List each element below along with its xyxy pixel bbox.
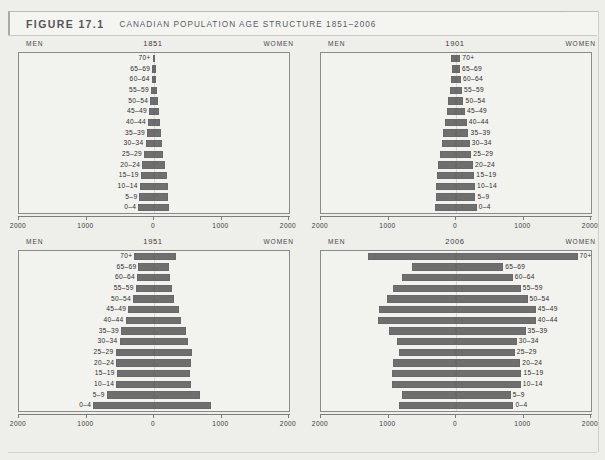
age-group-label: 35–39 bbox=[528, 328, 591, 335]
bar-men bbox=[412, 263, 456, 270]
bar-women bbox=[154, 263, 169, 270]
bar-women bbox=[456, 108, 465, 115]
age-group-label: 35–39 bbox=[19, 328, 119, 335]
chart-title: 2006 bbox=[310, 237, 600, 246]
age-group-label: 15–19 bbox=[476, 172, 591, 179]
bar-men bbox=[126, 317, 154, 324]
axis-tick bbox=[523, 216, 524, 220]
bar-men bbox=[399, 402, 456, 409]
page-title: CANADIAN POPULATION AGE STRUCTURE 1851–2… bbox=[119, 20, 376, 29]
axis-tick-label: 0 bbox=[151, 420, 155, 427]
bar-women bbox=[456, 317, 536, 324]
bar-men bbox=[389, 327, 457, 334]
x-axis: 20001000010002000 bbox=[18, 414, 290, 434]
age-group-label: 5–9 bbox=[19, 194, 137, 201]
axis-tick bbox=[320, 216, 321, 220]
axis-line bbox=[18, 414, 290, 415]
age-group-label: 45–49 bbox=[19, 108, 147, 115]
axis-tick-label: 2000 bbox=[10, 420, 26, 427]
bar-women bbox=[154, 87, 157, 94]
bar-men bbox=[140, 183, 154, 190]
bar-women bbox=[154, 253, 176, 260]
age-group-label: 15–19 bbox=[19, 370, 115, 377]
bar-women bbox=[154, 306, 179, 313]
bar-women bbox=[154, 391, 200, 398]
header-underline bbox=[8, 35, 597, 36]
bar-men bbox=[402, 274, 456, 281]
bar-men bbox=[378, 317, 456, 324]
axis-tick-label: 0 bbox=[151, 222, 155, 229]
bar-men bbox=[142, 161, 154, 168]
age-group-label: 25–29 bbox=[19, 151, 142, 158]
age-group-label: 0–4 bbox=[515, 402, 591, 409]
bar-men bbox=[447, 108, 456, 115]
bar-women bbox=[154, 295, 174, 302]
axis-tick bbox=[320, 414, 321, 418]
bar-women bbox=[154, 108, 159, 115]
bar-men bbox=[402, 391, 456, 398]
age-group-label: 60–64 bbox=[19, 76, 150, 83]
bar-women bbox=[456, 183, 475, 190]
bar-women bbox=[154, 119, 160, 126]
age-group-label: 55–59 bbox=[19, 285, 134, 292]
bar-women bbox=[456, 381, 521, 388]
bar-women bbox=[154, 65, 156, 72]
axis-tick-label: 1000 bbox=[77, 222, 93, 229]
bar-women bbox=[456, 391, 511, 398]
bar-men bbox=[134, 253, 154, 260]
age-group-label: 25–29 bbox=[517, 349, 591, 356]
page-right-edge bbox=[598, 11, 599, 452]
x-axis: 20001000010002000 bbox=[320, 414, 592, 434]
axis-line bbox=[320, 216, 592, 217]
plot-area: 70+65–6960–6455–5950–5445–4940–4435–3930… bbox=[320, 52, 592, 214]
chart-grid: MENWOMEN185170+65–6960–6455–5950–5445–49… bbox=[0, 38, 605, 442]
age-group-label: 65–69 bbox=[505, 264, 591, 271]
age-group-label: 20–24 bbox=[475, 162, 591, 169]
bar-men bbox=[397, 338, 456, 345]
axis-tick bbox=[153, 216, 154, 220]
bar-men bbox=[436, 183, 456, 190]
bar-men bbox=[107, 391, 154, 398]
bar-women bbox=[456, 129, 468, 136]
age-group-label: 5–9 bbox=[477, 194, 591, 201]
bar-men bbox=[392, 370, 456, 377]
axis-tick-label: 2000 bbox=[10, 222, 26, 229]
bar-women bbox=[456, 263, 503, 270]
bar-women bbox=[456, 193, 475, 200]
bar-men bbox=[436, 193, 456, 200]
bar-women bbox=[456, 172, 474, 179]
age-group-label: 65–69 bbox=[19, 66, 150, 73]
bar-men bbox=[136, 285, 154, 292]
axis-tick bbox=[153, 414, 154, 418]
bar-men bbox=[93, 402, 154, 409]
age-group-label: 55–59 bbox=[19, 87, 149, 94]
age-group-label: 15–19 bbox=[523, 370, 591, 377]
bar-women bbox=[456, 97, 463, 104]
age-group-label: 55–59 bbox=[464, 87, 591, 94]
bar-men bbox=[128, 306, 154, 313]
bar-men bbox=[139, 193, 154, 200]
bar-men bbox=[121, 327, 154, 334]
age-group-label: 50–54 bbox=[19, 98, 148, 105]
bar-women bbox=[456, 204, 477, 211]
bar-men bbox=[392, 381, 456, 388]
axis-tick bbox=[18, 216, 19, 220]
bar-women bbox=[456, 327, 526, 334]
axis-tick bbox=[288, 414, 289, 418]
page-footer-rule bbox=[8, 452, 597, 453]
bar-women bbox=[456, 55, 460, 62]
bar-women bbox=[456, 306, 536, 313]
bar-men bbox=[438, 161, 456, 168]
age-group-label: 60–64 bbox=[463, 76, 591, 83]
bar-men bbox=[379, 306, 456, 313]
age-group-label: 40–44 bbox=[19, 317, 124, 324]
bar-women bbox=[154, 129, 161, 136]
bar-women bbox=[456, 295, 528, 302]
chart-title: 1951 bbox=[8, 237, 298, 246]
age-group-label: 20–24 bbox=[19, 162, 140, 169]
bar-women bbox=[154, 140, 162, 147]
age-group-label: 20–24 bbox=[522, 360, 591, 367]
bar-women bbox=[154, 274, 170, 281]
x-axis: 20001000010002000 bbox=[18, 216, 290, 236]
bar-men bbox=[120, 338, 154, 345]
